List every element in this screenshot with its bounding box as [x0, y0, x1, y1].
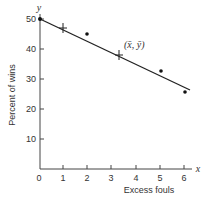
x-axis-symbol: x — [195, 163, 201, 174]
y-axis-label: Percent of wins — [7, 64, 17, 126]
data-point — [159, 69, 163, 73]
data-point — [38, 17, 42, 21]
data-point — [183, 90, 187, 94]
y-axis-symbol: y — [36, 2, 42, 13]
y-tick-30: 30 — [26, 74, 36, 84]
x-axis-label: Excess fouls — [124, 185, 175, 195]
y-tick-10: 10 — [26, 134, 36, 144]
y-tick-40: 40 — [26, 44, 36, 54]
y-tick-20: 20 — [26, 104, 36, 114]
cross-marker-mean — [115, 50, 123, 60]
x-tick-2: 2 — [84, 173, 89, 183]
y-tick-labels: 50 40 30 20 10 — [26, 14, 36, 144]
scatter-chart: 50 40 30 20 10 0 1 2 3 4 5 6 y x Excess … — [0, 0, 206, 202]
y-ticks — [40, 19, 44, 139]
x-tick-4: 4 — [133, 173, 138, 183]
mean-point-label: (x̄, ȳ) — [124, 39, 145, 51]
x-tick-1: 1 — [60, 173, 65, 183]
x-tick-5: 5 — [157, 173, 162, 183]
x-tick-0: 0 — [36, 173, 41, 183]
x-ticks — [63, 165, 184, 169]
x-tick-6: 6 — [181, 173, 186, 183]
data-point — [85, 32, 89, 36]
x-tick-3: 3 — [108, 173, 113, 183]
y-tick-50: 50 — [26, 14, 36, 24]
x-tick-labels: 0 1 2 3 4 5 6 — [36, 173, 186, 183]
